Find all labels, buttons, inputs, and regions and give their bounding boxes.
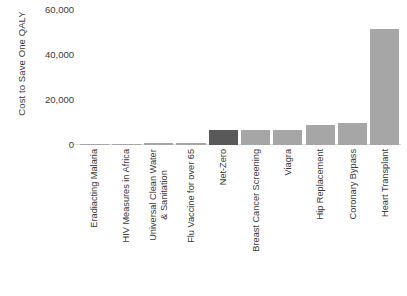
x-axis-tick-label: Flu Vaccine for over 65 [186,149,197,243]
bar-slot [78,10,110,145]
x-axis-tick-label: Hip Replacement [315,149,326,219]
x-axis-tick-label: Eradiacting Malaria [89,149,100,228]
x-axis-tick-labels: Eradiacting MalariaHIV Measures in Afric… [78,149,401,294]
y-axis-tick-label: 20,000 [34,94,74,105]
x-axis-tick-label: Coronary Bypass [347,149,358,219]
plot-area [78,10,401,145]
bar-slot [110,10,142,145]
bar[interactable] [273,130,302,145]
y-axis-title: Cost to Save One QALY [16,0,27,129]
bar[interactable] [176,143,205,145]
y-axis-tick-label: 40,000 [34,49,74,60]
x-axis-label-slot: Coronary Bypass [336,149,368,294]
bar[interactable] [306,125,335,145]
bar[interactable] [370,29,399,145]
x-axis-tick-label: HIV Measures in Africa [121,149,132,242]
x-axis-label-slot: Hip Replacement [304,149,336,294]
y-axis-tick-labels: 020,00040,00060,000 [34,0,74,148]
x-axis-tick-label: Viagra [283,149,294,175]
x-axis-label-slot: Breast Cancer Screening [239,149,271,294]
bar[interactable] [241,130,270,145]
bar-slot [143,10,175,145]
bar[interactable] [338,123,367,146]
x-axis-label-slot: Heart Transplant [369,149,401,294]
x-axis-tick-label: Heart Transplant [380,149,391,217]
x-axis-label-slot: Flu Vaccine for over 65 [175,149,207,294]
x-axis-tick-label: Net-Zero [218,149,229,185]
x-axis-label-slot: Viagra [272,149,304,294]
bar-slot [207,10,239,145]
bar-slot [304,10,336,145]
bar-slot [336,10,368,145]
bar[interactable] [209,130,238,145]
x-axis-tick-label: Breast Cancer Screening [250,149,261,252]
bar-slot [239,10,271,145]
bar-chart: Cost to Save One QALY 020,00040,00060,00… [0,0,407,296]
x-axis-label-slot: Universal Clean Water & Sanitation [143,149,175,294]
y-axis-tick-label: 0 [34,139,74,150]
bar[interactable] [80,144,109,145]
x-axis-label-slot: HIV Measures in Africa [110,149,142,294]
y-axis-tick-label: 60,000 [34,4,74,15]
bar[interactable] [112,144,141,145]
x-axis-label-slot: Eradiacting Malaria [78,149,110,294]
bar-series [78,10,401,145]
x-axis-tick-label: Universal Clean Water & Sanitation [148,149,169,241]
bar-slot [272,10,304,145]
bar-slot [175,10,207,145]
bar-slot [369,10,401,145]
x-axis-label-slot: Net-Zero [207,149,239,294]
bar[interactable] [144,143,173,145]
